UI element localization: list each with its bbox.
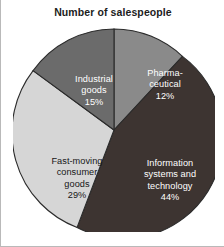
pie-label-industrial-goods-value: 15%	[57, 97, 131, 108]
pie-label-fmcg-line3: goods	[31, 179, 123, 190]
pie-chart-plot-area: Industrial goods 15% Pharma- ceutical 12…	[13, 28, 215, 232]
pie-label-information-value: 44%	[121, 192, 219, 203]
pie-label-information-systems-and-technology: Information systems and technology 44%	[121, 158, 219, 204]
pie-label-industrial-goods: Industrial goods 15%	[57, 74, 131, 108]
pie-label-pharmaceutical-line2: ceutical	[135, 79, 195, 90]
pie-label-pharmaceutical-line1: Pharma-	[135, 68, 195, 79]
pie-label-pharmaceutical: Pharma- ceutical 12%	[135, 68, 195, 102]
pie-label-pharmaceutical-value: 12%	[135, 91, 195, 102]
pie-label-industrial-goods-line1: Industrial	[57, 74, 131, 85]
pie-label-fast-moving-consumer-goods: Fast-moving consumer goods 29%	[31, 156, 123, 202]
pie-label-information-line1: Information	[121, 158, 219, 169]
pie-label-fmcg-line2: consumer	[31, 167, 123, 178]
pie-label-fmcg-line1: Fast-moving	[31, 156, 123, 167]
pie-label-fmcg-value: 29%	[31, 190, 123, 201]
pie-label-industrial-goods-line2: goods	[57, 85, 131, 96]
pie-label-information-line3: technology	[121, 181, 219, 192]
pie-label-information-line2: systems and	[121, 169, 219, 180]
pie-chart-figure: Number of salespeople Industrial goods 1…	[0, 0, 224, 247]
chart-title: Number of salespeople	[1, 6, 224, 19]
